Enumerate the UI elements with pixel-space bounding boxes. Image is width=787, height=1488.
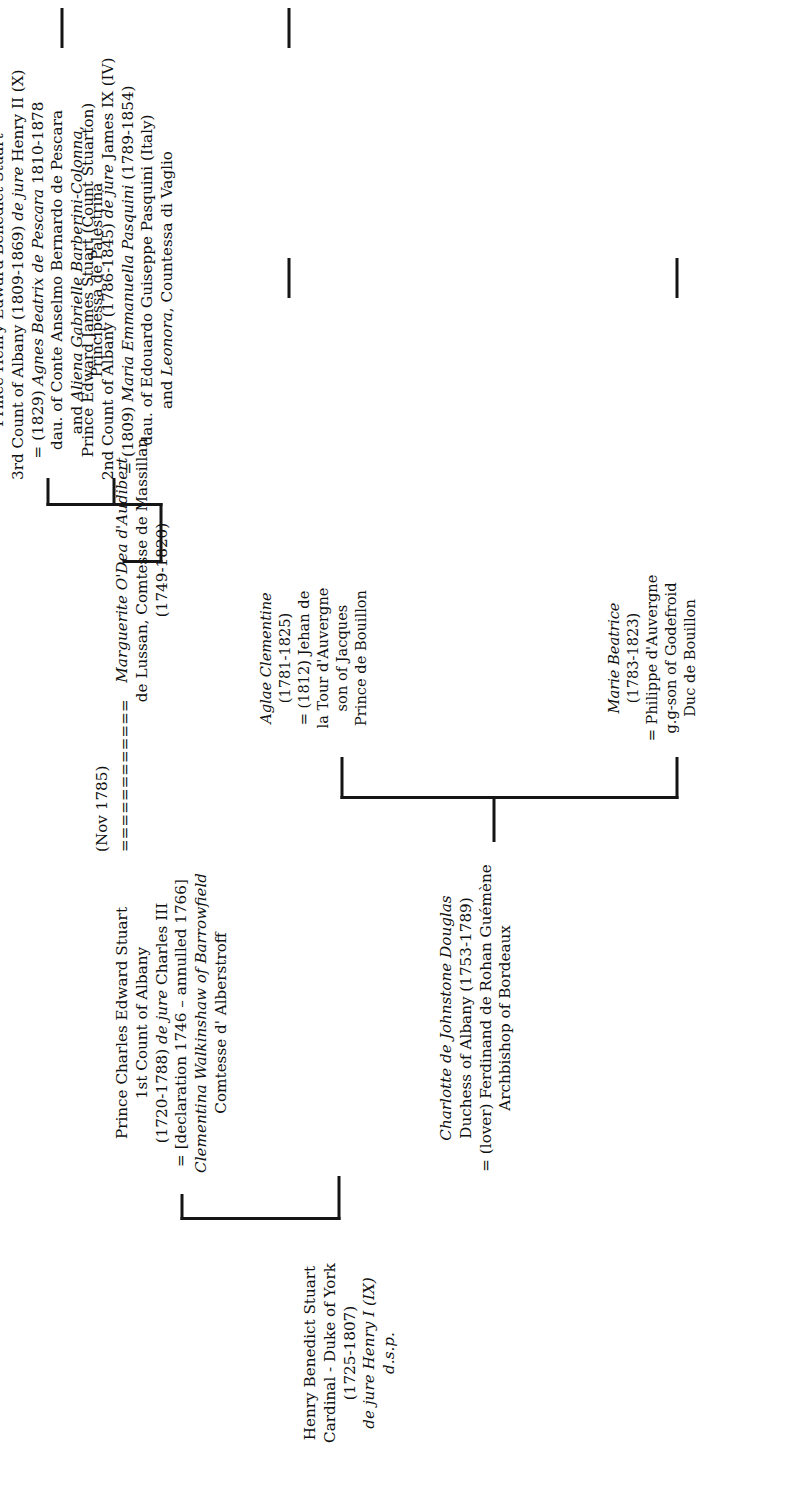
node-charles-edward-stuart: Prince Charles Edward Stuart 1st Count o… — [112, 858, 231, 1188]
continuation-dash-marie — [675, 258, 678, 298]
node-line: = (lover) Ferdinand de Rohan Guémène — [476, 848, 496, 1188]
node-line: Principessa de Palestrina — [87, 80, 107, 480]
children-bracket-arm-henry — [46, 478, 49, 506]
node-line: Charlotte de Johnstone Douglas — [436, 848, 456, 1188]
node-line: son of Jacques — [332, 558, 351, 758]
node-line: Clementina Walkinshaw of Barrowfield — [191, 858, 211, 1188]
node-line: (1783-1823) — [623, 558, 642, 758]
node-line: g.g-son of Godefroid — [661, 558, 680, 758]
node-line: (1781-1825) — [275, 558, 294, 758]
marriage-descent-stem — [159, 503, 162, 563]
node-line: 1st Count of Albany — [132, 858, 152, 1188]
node-aglae-clementine: Aglae Clementine (1781-1825) = (1812) Je… — [256, 558, 370, 758]
node-line: dau. of Edouardo Guiseppe Pasquini (Ital… — [137, 80, 157, 480]
node-line: Comtesse d' Alberstroff — [211, 858, 231, 1188]
node-line: dau. of Conte Anselmo Bernardo de Pescar… — [47, 80, 67, 480]
node-charlotte-de-johnstone-douglas: Charlotte de Johnstone Douglas Duchess o… — [436, 848, 515, 1188]
node-line: Duc de Bouillon — [680, 558, 699, 758]
node-marie-beatrice: Marie Beatrice (1783-1823) = Philippe d'… — [604, 558, 699, 758]
daughters-bracket-vertical — [340, 796, 678, 799]
daughters-bracket-arm-aglae — [340, 757, 343, 799]
node-line: Prince Henry Edward Benedict Stuart — [0, 80, 8, 480]
daughters-bracket-arm-marie — [675, 757, 678, 799]
marriage-descent-vertical — [122, 560, 162, 563]
node-line: Henry Benedict Stuart — [300, 1228, 320, 1478]
marriage-date-label: (Nov 1785) — [92, 766, 110, 852]
node-line: = (1829) Agnes Beatrix de Pescara 1810-1… — [28, 80, 48, 480]
continuation-dash-aglae — [287, 258, 290, 298]
node-line: (1720-1788) de jure Charles III — [152, 858, 172, 1188]
continuation-dash-edward — [287, 8, 290, 48]
node-line: la Tour d'Auvergne — [313, 558, 332, 758]
node-line: Prince de Bouillon — [351, 558, 370, 758]
family-tree-page: Henry Benedict Stuart Cardinal - Duke of… — [0, 0, 787, 1488]
marriage-equals-connector: ============ — [115, 699, 133, 852]
node-line: = (1809) Maria Emmanuella Pasquini (1789… — [118, 80, 138, 480]
charlotte-descent-stem — [492, 796, 495, 842]
node-line: and Leonora, Countessa di Vaglio — [157, 80, 177, 480]
node-henry-benedict-stuart: Henry Benedict Stuart Cardinal - Duke of… — [300, 1228, 399, 1478]
children-bracket-vertical — [46, 503, 162, 506]
sibling-bracket-arm-lower — [337, 1176, 340, 1220]
node-line: = [declaration 1746 – annulled 1766] — [171, 858, 191, 1188]
node-line: Cardinal - Duke of York — [320, 1228, 340, 1478]
node-line: Marie Beatrice — [604, 558, 623, 758]
children-bracket-arm-edward — [112, 478, 115, 506]
continuation-dash-henry — [60, 8, 63, 48]
node-line: Aglae Clementine — [256, 558, 275, 758]
node-line: = Philippe d'Auvergne — [642, 558, 661, 758]
node-line: 3rd Count of Albany (1809-1869) de jure … — [8, 80, 28, 480]
node-line: and Aliena Gabrielle Barberini-Colonna, — [67, 80, 87, 480]
node-henry-edward-benedict-stuart: Prince Henry Edward Benedict Stuart 3rd … — [0, 80, 107, 480]
node-line: Archbishop of Bordeaux — [495, 848, 515, 1188]
node-line: = (1812) Jehan de — [294, 558, 313, 758]
node-line: d.s.p. — [379, 1228, 399, 1478]
node-line: Prince Charles Edward Stuart — [112, 858, 132, 1188]
node-line: (1725-1807) — [340, 1228, 360, 1478]
sibling-bracket-arm-upper — [180, 1194, 183, 1220]
node-line: de jure Henry I (IX) — [359, 1228, 379, 1478]
sibling-bracket-vertical — [180, 1217, 340, 1220]
family-tree-canvas: Henry Benedict Stuart Cardinal - Duke of… — [0, 0, 787, 1488]
node-line: Duchess of Albany (1753-1789) — [456, 848, 476, 1188]
